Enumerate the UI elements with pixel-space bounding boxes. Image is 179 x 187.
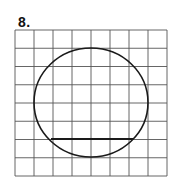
- grid-figure: [0, 0, 179, 187]
- grid-lines: [15, 30, 167, 176]
